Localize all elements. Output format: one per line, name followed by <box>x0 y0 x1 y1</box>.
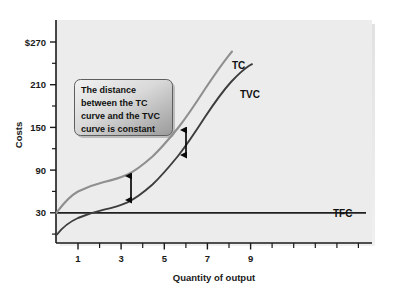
x-tick-label-3: 3 <box>118 253 123 264</box>
chart-svg: $270 210 150 90 30 Costs 1 3 5 7 9 <box>0 0 394 293</box>
y-tick-label-30: 30 <box>35 207 46 218</box>
y-tick-label-90: 90 <box>35 165 46 176</box>
callout-line-3: curve and the TVC <box>81 111 161 121</box>
x-tick-label-7: 7 <box>205 253 210 264</box>
callout-line-1: The distance <box>81 85 136 95</box>
y-axis-title: Costs <box>13 122 24 148</box>
x-axis-title: Quantity of output <box>173 272 256 283</box>
tvc-curve-label: TVC <box>240 89 260 100</box>
y-tick-label-150: 150 <box>30 122 46 133</box>
callout-box: The distance between the TC curve and th… <box>75 80 176 139</box>
callout-line-2: between the TC <box>81 98 148 108</box>
y-tick-label-210: 210 <box>30 79 46 90</box>
x-tick-label-9: 9 <box>248 253 253 264</box>
cost-curve-figure: $270 210 150 90 30 Costs 1 3 5 7 9 <box>0 0 394 293</box>
callout-line-4: curve is constant <box>81 124 155 134</box>
x-tick-label-5: 5 <box>162 253 168 264</box>
tc-curve-label: TC <box>232 60 245 71</box>
tfc-curve-label: TFC <box>333 208 352 219</box>
y-tick-label-270: $270 <box>25 37 46 48</box>
x-tick-label-1: 1 <box>75 253 81 264</box>
